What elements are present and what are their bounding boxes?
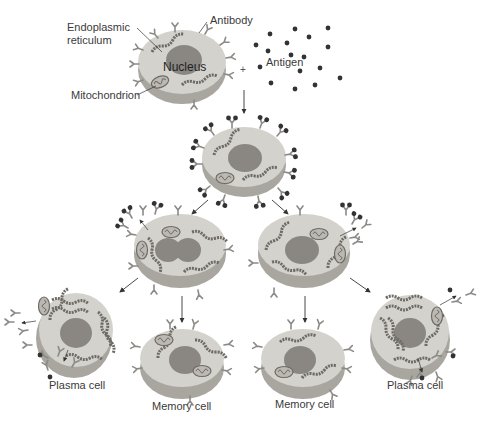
label-antibody: Antibody bbox=[210, 14, 253, 27]
memory-cell-left bbox=[131, 320, 234, 405]
memory-cell-right bbox=[253, 320, 354, 400]
label-memory-cell-right: Memory cell bbox=[275, 398, 334, 411]
b-cell-dividing-left bbox=[114, 200, 233, 299]
b-cell-dividing-right bbox=[249, 203, 371, 297]
plasma-cell-right bbox=[370, 288, 475, 386]
label-antigen: Antigen bbox=[266, 56, 303, 69]
plus-sign: + bbox=[240, 64, 246, 75]
label-endoplasmic-line1: Endoplasmic bbox=[67, 21, 130, 34]
label-nucleus: Nucleus bbox=[163, 60, 206, 74]
label-memory-cell-left: Memory cell bbox=[152, 400, 211, 413]
label-plasma-cell-left: Plasma cell bbox=[49, 379, 105, 392]
label-mitochondrion: Mitochondrion bbox=[71, 89, 140, 102]
label-plasma-cell-right: Plasma cell bbox=[387, 379, 443, 392]
b-cell-activated bbox=[190, 114, 299, 209]
plasma-cell-left bbox=[5, 288, 115, 380]
label-endoplasmic-line2: reticulum bbox=[67, 34, 130, 47]
label-endoplasmic-reticulum: Endoplasmic reticulum bbox=[67, 21, 130, 47]
